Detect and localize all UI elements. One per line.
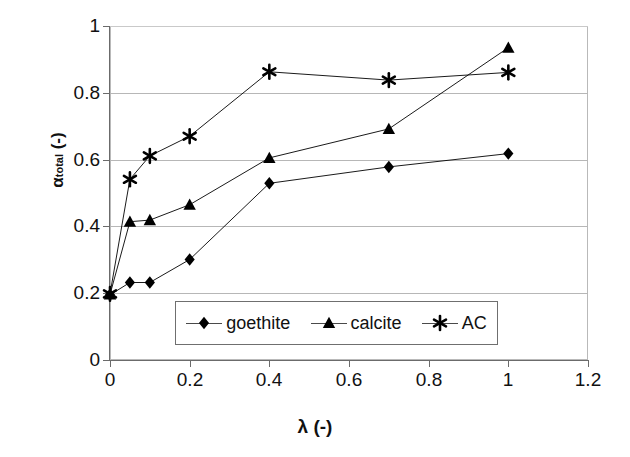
data-series-layer <box>0 0 630 457</box>
series-calcite <box>104 42 515 300</box>
data-point-goethite <box>264 177 274 189</box>
data-point-goethite <box>384 161 394 173</box>
x-axis-title: λ (-) <box>0 416 630 438</box>
legend-marker-asterisk-icon <box>422 314 458 332</box>
data-point-calcite <box>263 152 275 163</box>
legend-label-text: goethite <box>226 314 290 332</box>
series-line-calcite <box>110 48 508 295</box>
legend-label-text: AC <box>462 314 487 332</box>
series-line-AC <box>110 72 508 294</box>
data-point-calcite <box>502 42 514 53</box>
data-point-calcite <box>183 198 195 209</box>
legend-item-goethite[interactable]: goethite <box>186 314 290 332</box>
data-point-AC <box>184 129 196 143</box>
legend-key-marker <box>321 314 337 332</box>
chart-legend: goethitecalciteAC <box>175 301 498 345</box>
series-line-goethite <box>110 154 508 295</box>
data-point-goethite <box>125 276 135 288</box>
data-point-calcite <box>383 123 395 134</box>
data-point-goethite <box>503 147 513 159</box>
legend-key-marker <box>432 314 448 332</box>
legend-item-ac[interactable]: AC <box>422 314 487 332</box>
x-axis-title-text: λ (-) <box>298 416 333 437</box>
y-axis-title-symbol: α <box>48 177 67 187</box>
data-point-goethite <box>145 276 155 288</box>
y-axis-title-unit: (-) <box>48 132 67 154</box>
y-axis-title: αtotal (-) <box>48 100 68 220</box>
legend-marker-diamond-icon <box>186 314 222 332</box>
data-point-calcite <box>144 214 156 225</box>
legend-item-calcite[interactable]: calcite <box>311 314 402 332</box>
chart-figure: 00.20.40.60.81 00.20.40.60.811.2 αtotal … <box>0 0 630 457</box>
y-axis-title-subscript: total <box>53 154 65 177</box>
legend-key-marker <box>196 314 212 332</box>
series-AC <box>104 65 514 301</box>
legend-label-text: calcite <box>351 314 402 332</box>
legend-marker-triangle-icon <box>311 314 347 332</box>
series-goethite <box>105 147 514 301</box>
data-point-goethite <box>185 253 195 265</box>
